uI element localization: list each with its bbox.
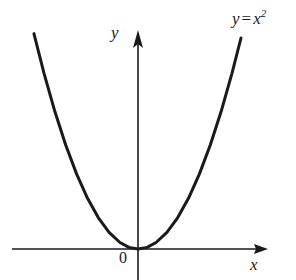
x-axis-label: x: [250, 256, 258, 273]
plot-canvas: [0, 0, 296, 280]
parabola-figure: y=x2 y x 0: [0, 0, 296, 280]
curve-equation-label: y=x2: [232, 8, 266, 27]
curve-equation-exponent: 2: [261, 7, 267, 19]
curve-equation-variable: y: [232, 9, 240, 28]
curve-equation-base: x: [253, 9, 261, 28]
curve-equation-equals: =: [240, 9, 254, 28]
y-axis-label: y: [111, 24, 119, 41]
origin-label: 0: [119, 250, 127, 266]
x-axis-arrowhead: [254, 244, 268, 254]
